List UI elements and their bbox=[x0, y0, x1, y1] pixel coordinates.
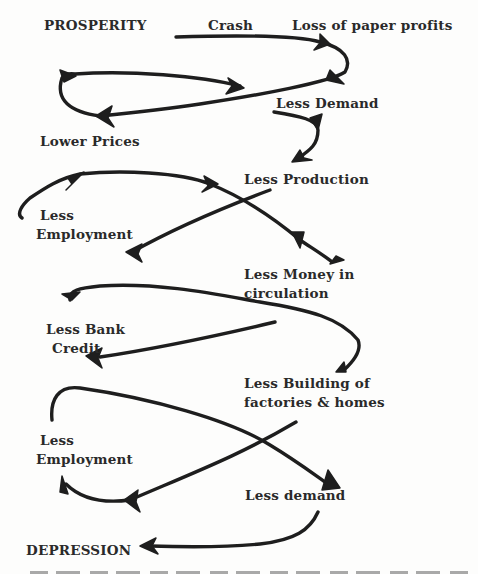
node-less-production: Less Production bbox=[244, 170, 369, 189]
arrowhead-icon bbox=[226, 78, 244, 94]
cropped-caption-text bbox=[30, 566, 470, 574]
node-depression: DEPRESSION bbox=[26, 541, 131, 560]
arrowhead-icon bbox=[330, 256, 344, 264]
node-lower-prices: Lower Prices bbox=[40, 132, 140, 151]
arrowhead-icon bbox=[124, 490, 140, 512]
arrow-production-to-employment bbox=[132, 190, 270, 252]
arrowhead-icon bbox=[292, 232, 304, 248]
arrowhead-icon bbox=[310, 114, 322, 130]
arrowhead-icon bbox=[202, 176, 218, 192]
arrow-to-bank-credit bbox=[100, 322, 275, 357]
arrow-demand-to-depression bbox=[150, 512, 318, 547]
node-less-building: Less Building of factories & homes bbox=[244, 374, 385, 412]
node-less-demand: Less Demand bbox=[276, 94, 379, 113]
node-less-employment-1: Less Employment bbox=[40, 206, 133, 244]
node-less-demand-2: Less demand bbox=[245, 486, 346, 505]
arrowhead-icon bbox=[336, 362, 346, 372]
node-crash: Crash bbox=[208, 16, 253, 35]
arrowhead-icon bbox=[326, 70, 344, 84]
node-loss-of-paper-profits: Loss of paper profits bbox=[292, 16, 452, 35]
node-less-bank-credit: Less Bank Credit bbox=[46, 320, 125, 358]
node-less-money: Less Money in circulation bbox=[244, 265, 354, 303]
arrowhead-icon bbox=[126, 244, 142, 262]
node-prosperity: PROSPERITY bbox=[44, 16, 147, 35]
arrows-layer bbox=[0, 0, 478, 574]
arrowhead-icon bbox=[66, 172, 84, 190]
diagram-canvas: PROSPERITY Crash Loss of paper profits L… bbox=[0, 0, 478, 574]
arrowhead-icon bbox=[62, 292, 80, 300]
node-less-employment-2: Less Employment bbox=[40, 431, 133, 469]
